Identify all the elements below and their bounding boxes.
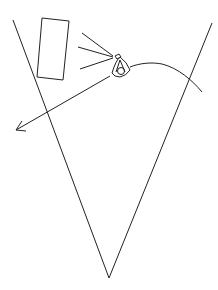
light-rays [78,33,113,69]
arrow-shaft [16,76,110,130]
cone-shape [13,20,212,278]
eye-icon [112,54,130,77]
cone-left-edge [13,20,109,278]
arrow [16,76,110,131]
curve-line [130,63,202,92]
diagram-canvas [0,0,218,290]
panel-rectangle [37,18,69,80]
ray-bottom [80,58,113,69]
